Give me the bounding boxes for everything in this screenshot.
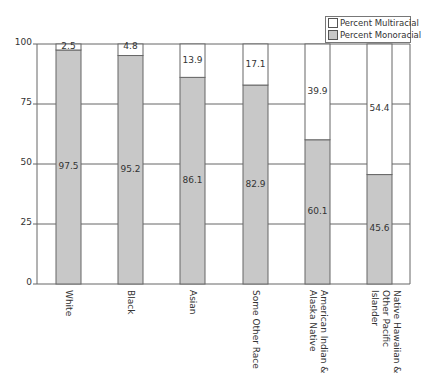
plot-area <box>0 0 430 383</box>
value-label-multiracial: 39.9 <box>298 86 338 96</box>
legend-item-multiracial: Percent Multiracial <box>326 17 410 29</box>
value-label-multiracial: 54.4 <box>360 103 400 113</box>
value-label-monoracial: 95.2 <box>111 164 151 174</box>
x-category-label: American Indian &Alaska Native <box>307 290 329 373</box>
legend-swatch-multiracial <box>328 18 338 28</box>
y-tick-label: 50 <box>6 157 32 167</box>
x-category-label: White <box>63 290 74 316</box>
value-label-multiracial: 4.8 <box>111 41 151 51</box>
x-category-label: Black <box>125 290 136 314</box>
legend: Percent Multiracial Percent Monoracial <box>325 16 411 43</box>
legend-swatch-monoracial <box>328 30 338 40</box>
legend-item-monoracial: Percent Monoracial <box>326 29 410 41</box>
value-label-monoracial: 45.6 <box>360 223 400 233</box>
value-label-monoracial: 60.1 <box>298 206 338 216</box>
value-label-monoracial: 97.5 <box>49 161 89 171</box>
y-tick-label: 25 <box>6 217 32 227</box>
value-label-monoracial: 86.1 <box>173 175 213 185</box>
value-label-monoracial: 82.9 <box>236 179 276 189</box>
legend-label-monoracial: Percent Monoracial <box>340 29 421 41</box>
y-tick-label: 0 <box>6 277 32 287</box>
x-category-label: Native Hawaiian &Other Pacific Islander <box>369 290 402 383</box>
y-tick-label: 100 <box>6 37 32 47</box>
y-tick-label: 75 <box>6 97 32 107</box>
stacked-bar-chart: Percent Multiracial Percent Monoracial 0… <box>0 0 430 383</box>
legend-label-multiracial: Percent Multiracial <box>340 17 419 29</box>
x-category-label: Some Other Race <box>250 290 261 369</box>
value-label-multiracial: 2.5 <box>49 41 89 51</box>
x-category-label: Asian <box>187 290 198 315</box>
value-label-multiracial: 17.1 <box>236 59 276 69</box>
value-label-multiracial: 13.9 <box>173 55 213 65</box>
